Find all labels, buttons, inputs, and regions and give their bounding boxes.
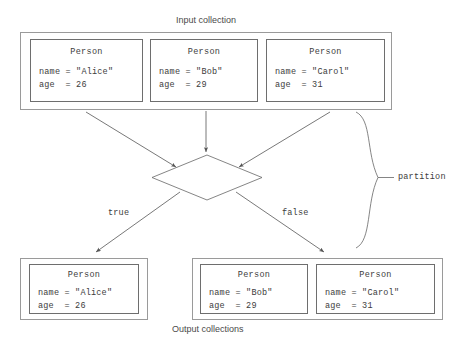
person-card-field-name: name = "Alice"	[39, 66, 142, 78]
person-card-field-name: name = "Bob"	[159, 66, 257, 78]
person-card-title: Person	[151, 47, 257, 57]
person-card-field-age: age = 31	[275, 79, 384, 91]
person-card-output-false-1: Person name = "Bob" age = 29	[200, 264, 308, 314]
person-card-field-age: age = 26	[39, 79, 142, 91]
arrow-input-3-to-decision	[239, 112, 330, 167]
person-card-field-name: name = "Carol"	[325, 287, 434, 299]
branch-label-true: true	[108, 208, 129, 218]
partition-brace	[356, 112, 378, 248]
person-card-input-1: Person name = "Alice" age = 26	[30, 39, 143, 102]
diagram-canvas: Input collection Person name = "Alice" a…	[0, 0, 475, 347]
predicate-label: p.age <= 27	[162, 173, 252, 183]
arrow-decision-true	[96, 192, 180, 252]
person-card-title: Person	[201, 270, 307, 280]
person-card-input-3: Person name = "Carol" age = 31	[266, 39, 385, 102]
output-collections-label: Output collections	[172, 324, 244, 334]
person-card-input-2: Person name = "Bob" age = 29	[150, 39, 258, 102]
person-card-output-false-2: Person name = "Carol" age = 31	[316, 264, 435, 314]
input-collection-label: Input collection	[176, 15, 236, 25]
person-card-field-age: age = 31	[325, 300, 434, 312]
arrow-decision-false	[236, 192, 324, 252]
person-card-output-true-1: Person name = "Alice" age = 26	[29, 264, 139, 314]
person-card-title: Person	[267, 47, 384, 57]
person-card-field-age: age = 26	[38, 300, 138, 312]
person-card-title: Person	[30, 270, 138, 280]
person-card-field-name: name = "Carol"	[275, 66, 384, 78]
person-card-field-age: age = 29	[209, 300, 307, 312]
person-card-field-name: name = "Bob"	[209, 287, 307, 299]
partition-label: partition	[398, 172, 446, 182]
branch-label-false: false	[282, 208, 309, 218]
person-card-title: Person	[31, 47, 142, 57]
person-card-title: Person	[317, 270, 434, 280]
arrow-input-1-to-decision	[86, 112, 176, 167]
person-card-field-age: age = 29	[159, 79, 257, 91]
person-card-field-name: name = "Alice"	[38, 287, 138, 299]
